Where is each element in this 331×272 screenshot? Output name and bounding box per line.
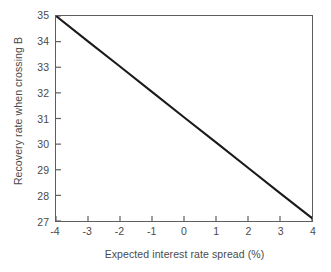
x-tick-label: -1 bbox=[139, 225, 165, 237]
y-tick-label: 30 bbox=[25, 138, 49, 150]
x-axis-title: Expected interest rate spread (%) bbox=[55, 248, 314, 260]
x-tick-label: 4 bbox=[300, 225, 326, 237]
x-tick-label: 2 bbox=[236, 225, 262, 237]
x-tick-label: -3 bbox=[74, 225, 100, 237]
y-tick-label: 31 bbox=[25, 113, 49, 125]
x-tick-label: 1 bbox=[203, 225, 229, 237]
plot-svg bbox=[56, 16, 312, 221]
x-tick-label: 3 bbox=[268, 225, 294, 237]
y-tick-label: 28 bbox=[25, 190, 49, 202]
x-tick-label: 0 bbox=[171, 225, 197, 237]
y-tick-label: 35 bbox=[25, 9, 49, 21]
y-tick-label: 32 bbox=[25, 87, 49, 99]
data-line-series-1 bbox=[56, 16, 312, 218]
plot-area bbox=[55, 15, 313, 222]
x-tick-label: -4 bbox=[42, 225, 68, 237]
y-tick-label: 33 bbox=[25, 61, 49, 73]
y-axis-title: Recovery rate when crossing B bbox=[9, 0, 27, 222]
chart-figure: Recovery rate when crossing B 2728293031… bbox=[0, 0, 331, 272]
y-tick-label: 34 bbox=[25, 35, 49, 47]
y-tick-label: 29 bbox=[25, 164, 49, 176]
x-tick-label: -2 bbox=[107, 225, 133, 237]
